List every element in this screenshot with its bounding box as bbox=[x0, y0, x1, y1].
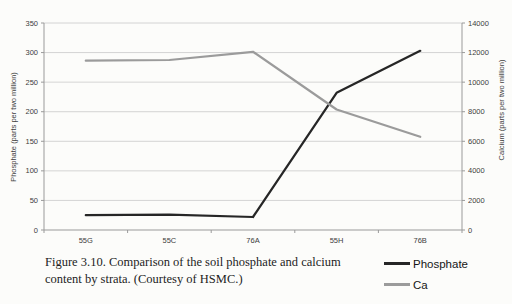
series-line-ca bbox=[86, 52, 420, 137]
caption-line2: content by strata. (Courtesy of HSMC.) bbox=[45, 272, 243, 286]
left-tick-label: 150 bbox=[25, 137, 38, 146]
x-tick-label: 55H bbox=[330, 236, 344, 245]
left-tick-label: 300 bbox=[25, 48, 38, 57]
x-tick-label: 76A bbox=[246, 236, 259, 245]
x-tick-label: 76B bbox=[414, 236, 427, 245]
legend-label-ca: Ca bbox=[413, 279, 428, 291]
x-tick-label: 55G bbox=[79, 236, 93, 245]
left-tick-label: 0 bbox=[34, 226, 38, 235]
left-tick-label: 350 bbox=[25, 19, 38, 28]
figure-caption: Figure 3.10. Comparison of the soil phos… bbox=[45, 254, 375, 288]
chart-canvas: 0501001502002503003500200040006000800010… bbox=[0, 0, 512, 248]
right-tick-label: 8000 bbox=[468, 107, 485, 116]
right-tick-label: 12000 bbox=[468, 48, 489, 57]
right-tick-label: 2000 bbox=[468, 196, 485, 205]
phosphate-line-swatch bbox=[384, 262, 410, 265]
scanned-book-page: Phosphate (parts per two million) 050100… bbox=[0, 0, 512, 304]
left-tick-label: 200 bbox=[25, 107, 38, 116]
right-tick-label: 0 bbox=[468, 226, 472, 235]
right-tick-label: 10000 bbox=[468, 78, 489, 87]
right-tick-label: 6000 bbox=[468, 137, 485, 146]
right-tick-label: 4000 bbox=[468, 166, 485, 175]
caption-line1: Figure 3.10. Comparison of the soil phos… bbox=[45, 255, 341, 269]
ca-line-swatch bbox=[384, 283, 410, 286]
left-tick-label: 250 bbox=[25, 78, 38, 87]
legend-label-phosphate: Phosphate bbox=[413, 258, 468, 270]
left-tick-label: 50 bbox=[30, 196, 38, 205]
right-tick-label: 14000 bbox=[468, 19, 489, 28]
legend-item-phosphate: Phosphate bbox=[384, 257, 468, 270]
chart-legend: Phosphate Ca bbox=[384, 257, 468, 299]
left-tick-label: 100 bbox=[25, 166, 38, 175]
x-tick-label: 55C bbox=[163, 236, 177, 245]
series-line-phosphate bbox=[86, 51, 420, 217]
legend-item-ca: Ca bbox=[384, 278, 468, 291]
right-axis-title: Calcium (parts per two million) bbox=[497, 60, 506, 161]
